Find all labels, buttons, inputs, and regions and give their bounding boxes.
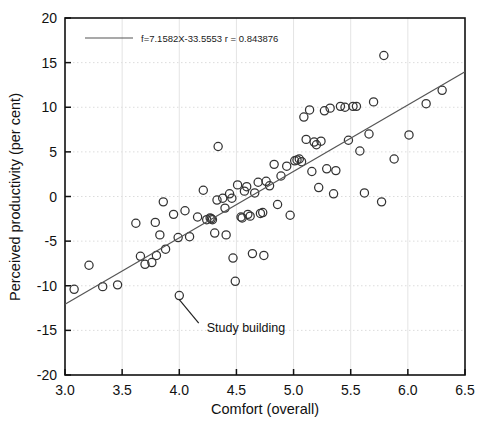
x-tick-label: 3.0 <box>55 382 75 398</box>
scatter-plot-figure: 3.03.54.04.55.05.56.06.5 20151050-5-10-1… <box>0 0 490 426</box>
y-tick-label: -5 <box>45 233 58 249</box>
x-tick-label: 6.0 <box>398 382 418 398</box>
y-tick-label: 15 <box>41 55 57 71</box>
y-tick-label: 10 <box>41 99 57 115</box>
y-tick-label: -15 <box>37 322 57 338</box>
x-tick-label: 4.0 <box>170 382 190 398</box>
x-tick-label: 5.5 <box>341 382 361 398</box>
y-tick-label: -10 <box>37 278 57 294</box>
x-tick-label: 3.5 <box>112 382 132 398</box>
legend-label: f=7.1582X-33.5553 r = 0.843876 <box>141 33 278 44</box>
y-tick-label: 5 <box>49 144 57 160</box>
y-axis-title: Perceived productivity (per cent) <box>7 93 23 301</box>
chart-canvas: 3.03.54.04.55.05.56.06.5 20151050-5-10-1… <box>0 0 490 426</box>
y-tick-label: 0 <box>49 189 57 205</box>
x-tick-label: 4.5 <box>227 382 247 398</box>
x-tick-label: 6.5 <box>455 382 475 398</box>
y-tick-label: -20 <box>37 367 57 383</box>
y-tick-label: 20 <box>41 10 57 26</box>
annotation-label: Study building <box>207 321 286 335</box>
x-tick-label: 5.0 <box>284 382 304 398</box>
x-axis-title: Comfort (overall) <box>211 401 319 417</box>
chart-background <box>0 0 490 426</box>
